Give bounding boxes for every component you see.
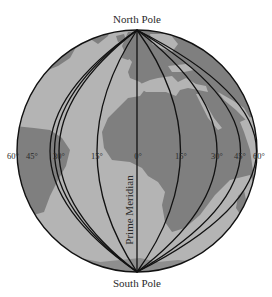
label-e30: 30° (211, 151, 223, 161)
globe-diagram: 60° 45° 30° 15° 0° 15° 30° 45° 60° North… (0, 0, 272, 297)
label-e60: 60° (253, 151, 265, 161)
label-w45: 45° (26, 151, 38, 161)
label-w15: 15° (91, 151, 103, 161)
label-e15: 15° (175, 151, 187, 161)
prime-meridian-label: Prime Meridian (123, 175, 135, 245)
label-w30: 30° (53, 151, 65, 161)
label-0: 0° (134, 151, 142, 161)
north-pole-label: North Pole (113, 13, 161, 25)
south-pole-label: South Pole (113, 277, 161, 289)
label-w60: 60° (7, 151, 19, 161)
label-e45: 45° (234, 151, 246, 161)
